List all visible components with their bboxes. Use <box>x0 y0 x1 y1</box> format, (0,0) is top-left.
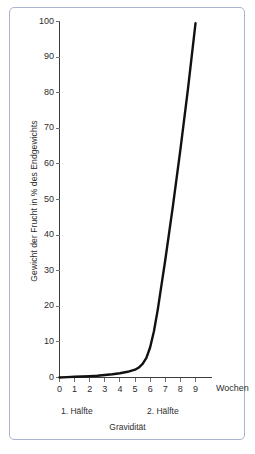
first-half-label: 1. Hälfte <box>61 406 93 416</box>
growth-curve-line <box>60 23 196 377</box>
figure-root: 0102030405060708090100 0123456789 Gewich… <box>0 0 255 454</box>
second-half-label: 2. Hälfte <box>147 406 179 416</box>
y-axis-title: Gewicht der Frucht in % des Endgewichts <box>29 96 39 306</box>
x-axis-unit-label: Wochen <box>216 383 249 393</box>
x-axis-title: Gravidität <box>0 422 255 432</box>
plot-area: 0102030405060708090100 0123456789 Gewich… <box>0 0 255 454</box>
